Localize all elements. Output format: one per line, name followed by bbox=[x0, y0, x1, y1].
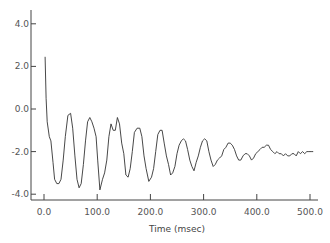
x-axis-title: Time (msec) bbox=[148, 224, 205, 234]
x-tick-label: 300.0 bbox=[191, 207, 217, 217]
x-tick-label: 100.0 bbox=[84, 207, 110, 217]
x-ticks: 0.0100.0200.0300.0400.0500.0 bbox=[37, 194, 323, 217]
y-tick-label: 2.0 bbox=[15, 61, 30, 71]
x-tick-label: 200.0 bbox=[138, 207, 164, 217]
y-tick-label: -4.0 bbox=[11, 189, 29, 199]
axes bbox=[31, 10, 318, 200]
x-tick-label: 0.0 bbox=[37, 207, 52, 217]
y-tick-label: -2.0 bbox=[11, 147, 29, 157]
y-tick-label: 0.0 bbox=[15, 104, 30, 114]
y-ticks: 4.02.00.0-2.0-4.0 bbox=[11, 19, 36, 199]
y-tick-label: 4.0 bbox=[15, 19, 30, 29]
waveform-chart: 4.02.00.0-2.0-4.0 0.0100.0200.0300.0400.… bbox=[0, 0, 330, 243]
x-tick-label: 500.0 bbox=[297, 207, 323, 217]
signal-line bbox=[45, 57, 313, 190]
x-tick-label: 400.0 bbox=[244, 207, 270, 217]
